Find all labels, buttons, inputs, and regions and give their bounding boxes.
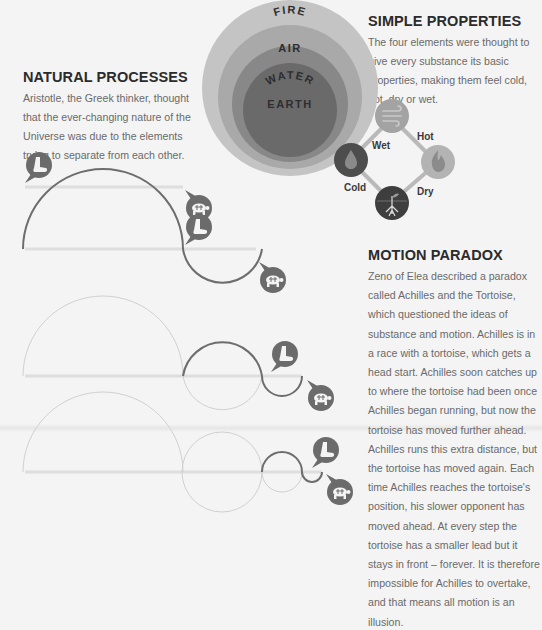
wet-label: Wet [372, 140, 390, 151]
tortoise-icon [307, 380, 334, 411]
water-node [334, 143, 368, 177]
achilles-boot-icon [25, 152, 52, 183]
achilles-boot-icon [185, 214, 212, 245]
air-node [375, 99, 409, 133]
achilles-run-arc [23, 169, 183, 249]
achilles-run-arc [262, 452, 302, 472]
fire-node [421, 145, 455, 179]
past-arc [23, 296, 183, 376]
hot-label: Hot [417, 131, 434, 142]
achilles-boot-icon [312, 437, 339, 468]
earth-label: EARTH [267, 98, 312, 110]
achilles-run-arc [183, 342, 262, 376]
past-arc [23, 392, 183, 472]
race-diagram [23, 152, 353, 512]
tortoise-run-arc [262, 376, 302, 396]
past-arc [262, 472, 302, 492]
past-arc [183, 376, 262, 410]
tortoise-icon [259, 262, 286, 293]
achilles-boot-icon [271, 341, 298, 372]
air-label: AIR [278, 42, 301, 54]
dry-label: Dry [417, 186, 434, 197]
race-row-4 [23, 392, 353, 512]
tortoise-icon [326, 474, 353, 505]
earth-node [375, 186, 409, 220]
race-row-3 [23, 296, 334, 411]
tortoise-run-arc [183, 249, 262, 283]
cold-label: Cold [344, 182, 366, 193]
